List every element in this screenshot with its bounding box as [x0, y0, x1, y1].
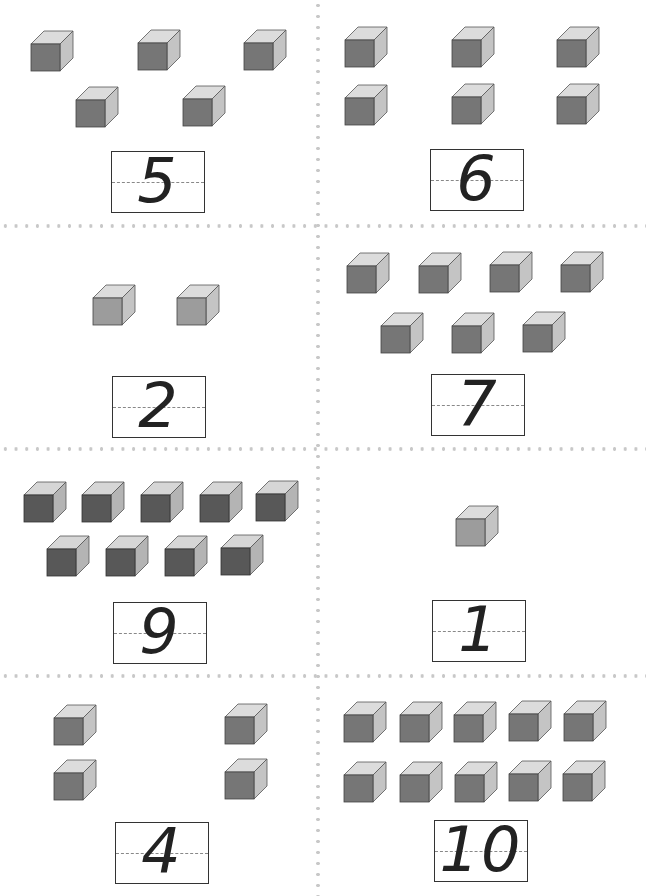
cube-icon	[380, 312, 424, 354]
cube-icon	[199, 481, 243, 523]
cube-icon	[522, 311, 566, 353]
cube-icon	[451, 26, 495, 68]
handwritten-number: 6	[431, 144, 523, 214]
cube-icon	[224, 703, 268, 745]
handwritten-number: 1	[433, 595, 525, 665]
number-writing-box: 5	[111, 151, 205, 213]
cube-icon	[489, 251, 533, 293]
cube-icon	[137, 29, 181, 71]
cube-icon	[453, 701, 497, 743]
cube-icon	[508, 760, 552, 802]
handwritten-number: 9	[114, 597, 206, 667]
cube-icon	[455, 505, 499, 547]
cube-icon	[344, 26, 388, 68]
number-writing-box: 6	[430, 149, 524, 211]
cube-icon	[454, 761, 498, 803]
cube-icon	[105, 535, 149, 577]
cube-icon	[53, 704, 97, 746]
cube-icon	[451, 312, 495, 354]
cube-icon	[399, 701, 443, 743]
cube-icon	[182, 85, 226, 127]
cube-icon	[176, 284, 220, 326]
number-writing-box: 4	[115, 822, 209, 884]
cube-icon	[562, 760, 606, 802]
number-writing-box: 9	[113, 602, 207, 664]
cube-icon	[81, 481, 125, 523]
cube-icon	[346, 252, 390, 294]
cube-icon	[46, 535, 90, 577]
cube-icon	[23, 481, 67, 523]
cube-icon	[53, 759, 97, 801]
cube-icon	[164, 535, 208, 577]
cube-icon	[220, 534, 264, 576]
cube-icon	[224, 758, 268, 800]
cube-icon	[243, 29, 287, 71]
cube-icon	[140, 481, 184, 523]
handwritten-number: 4	[116, 817, 208, 887]
number-writing-box: 7	[431, 374, 525, 436]
number-writing-box: 1	[432, 600, 526, 662]
cube-icon	[399, 761, 443, 803]
horizontal-dotted-divider	[0, 447, 646, 451]
number-writing-box: 10	[434, 820, 528, 882]
cube-icon	[563, 700, 607, 742]
cube-icon	[30, 30, 74, 72]
cube-icon	[508, 700, 552, 742]
number-writing-box: 2	[112, 376, 206, 438]
cube-icon	[75, 86, 119, 128]
handwritten-number: 7	[432, 369, 524, 439]
handwritten-number: 5	[112, 146, 204, 216]
cube-icon	[255, 480, 299, 522]
cube-icon	[92, 284, 136, 326]
handwritten-number: 2	[113, 371, 205, 441]
horizontal-dotted-divider	[0, 674, 646, 678]
cube-icon	[451, 83, 495, 125]
cube-icon	[556, 26, 600, 68]
cube-icon	[556, 83, 600, 125]
horizontal-dotted-divider	[0, 224, 646, 228]
cube-icon	[560, 251, 604, 293]
handwritten-number: 10	[435, 815, 527, 885]
cube-icon	[344, 84, 388, 126]
cube-icon	[343, 761, 387, 803]
cube-icon	[418, 252, 462, 294]
cube-icon	[343, 701, 387, 743]
